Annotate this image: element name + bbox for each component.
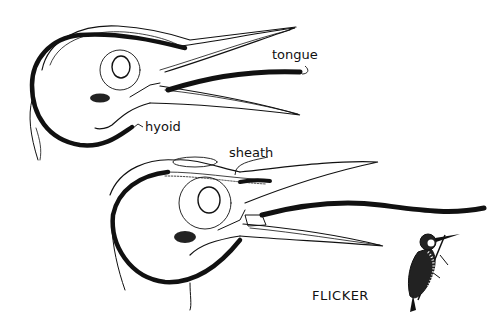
illustration-canvas	[0, 0, 501, 326]
tongue-leader	[302, 66, 308, 74]
sheath-bold	[240, 180, 270, 182]
hyoid-leader	[133, 124, 143, 128]
hyoid-bone-bottom	[113, 172, 240, 282]
tongue-top	[168, 72, 300, 90]
ear-hatch-bottom	[174, 231, 196, 243]
flicker-bird-figure	[408, 234, 460, 312]
hyoid-label: hyoid	[145, 120, 181, 133]
sheath-label: sheath	[229, 146, 273, 159]
tongue-bottom	[262, 203, 484, 215]
head-top-figure	[30, 26, 300, 160]
tongue-label: tongue	[272, 48, 318, 61]
ear-hatch-top	[90, 94, 110, 103]
figure-caption: FLICKER	[312, 288, 369, 303]
